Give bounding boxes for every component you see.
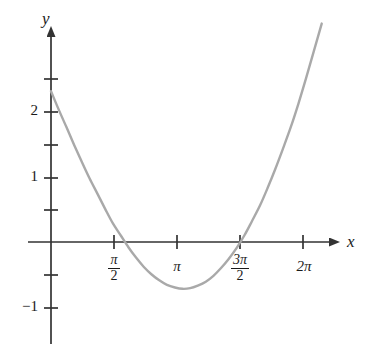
x-tick-label-pi: π — [163, 259, 191, 274]
x-tick-label-3pi-over-2: 3π 2 — [222, 253, 258, 284]
y-tick-label-neg1: −1 — [8, 299, 38, 314]
function-curve — [51, 24, 322, 289]
x-axis-label: x — [347, 233, 355, 250]
y-tick-label-2: 2 — [20, 103, 38, 118]
plot-canvas — [0, 0, 376, 346]
x-tick-label-pi-over-2: π 2 — [99, 253, 129, 284]
chart-figure: y x 2 1 −1 π 2 π 3π 2 2π — [0, 0, 376, 346]
fraction-pi-over-2: π 2 — [108, 253, 119, 284]
y-tick-label-1: 1 — [20, 169, 38, 184]
fraction-3pi-over-2: 3π 2 — [231, 253, 249, 284]
y-axis-label: y — [42, 10, 50, 27]
axes-group — [28, 36, 330, 344]
x-tick-label-2pi: 2π — [287, 259, 321, 274]
